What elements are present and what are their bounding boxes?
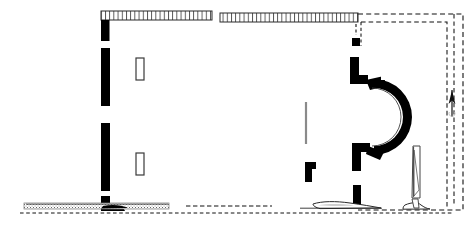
column-base-north <box>136 58 144 80</box>
east-pier-south <box>353 185 361 206</box>
south-wall-strip-west <box>24 203 169 209</box>
west-wall-segment-3 <box>101 123 110 191</box>
column-base-south <box>136 153 144 175</box>
north-wall-segment-east <box>220 13 358 22</box>
floor-plan-figure: Basilica floor plan north-arrow standing… <box>0 0 471 230</box>
north-wall-segment-west <box>101 11 212 20</box>
floor-plan-drawing <box>0 0 471 230</box>
apse-notch-north <box>381 76 385 80</box>
drawing-background <box>0 0 471 230</box>
east-tapered-wall <box>412 146 420 198</box>
west-wall-segment-1 <box>101 20 110 41</box>
west-wall-segment-2 <box>101 48 110 106</box>
